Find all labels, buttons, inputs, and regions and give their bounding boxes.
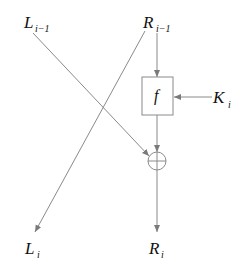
edge-L-to-xor [33,33,149,156]
svg-text:L: L [23,13,33,32]
feistel-diagram: L i−1 R i−1 K i L i R i f [0,0,247,265]
label-R-prev: R i−1 [142,13,171,34]
svg-text:R: R [148,239,160,258]
svg-text:i: i [228,99,231,110]
svg-text:i: i [161,249,164,260]
svg-text:R: R [142,13,154,32]
svg-text:L: L [24,239,34,258]
svg-text:i−1: i−1 [156,23,171,34]
label-R-next: R i [148,239,164,260]
label-L-next: L i [24,239,40,260]
svg-text:K: K [212,88,226,107]
edge-R-to-L [35,31,145,232]
label-K: K i [212,88,231,110]
label-L-prev: L i−1 [23,13,50,34]
svg-text:i: i [37,249,40,260]
xor-icon [148,152,166,170]
svg-text:i−1: i−1 [35,23,50,34]
